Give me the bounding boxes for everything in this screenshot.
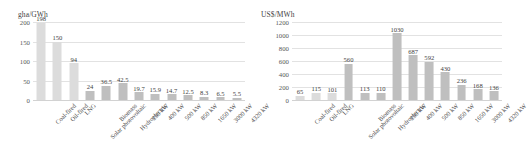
bar-value-label: 15.9	[150, 86, 162, 93]
bar-slot: 110	[373, 22, 389, 100]
bar-value-label: 198	[36, 15, 46, 22]
bar-value-label: 1030	[390, 26, 403, 33]
bar-slot: 42.5	[115, 22, 131, 100]
bar-slot: 198	[33, 22, 49, 100]
y-axis-tick-label: 1000	[275, 32, 289, 39]
bar-slot: 236	[454, 22, 470, 100]
bar-value-label: 65	[297, 88, 304, 95]
bar-value-label: 14.7	[166, 87, 178, 94]
bar-slot: 115	[308, 22, 324, 100]
bar[interactable]	[102, 86, 111, 100]
bar[interactable]	[312, 93, 321, 100]
bar-value-label: 236	[457, 77, 467, 84]
bar[interactable]	[151, 94, 160, 100]
bar[interactable]	[489, 91, 498, 100]
bar[interactable]	[232, 98, 241, 100]
bar-value-label: 430	[440, 65, 450, 72]
bar[interactable]	[200, 97, 209, 100]
y-axis-tick-label: 400	[279, 71, 289, 78]
plot-area-left: 198150942436.542.519.715.914.712.58.36.5…	[33, 22, 245, 100]
chart-panel-left: gha/GWh 198150942436.542.519.715.914.712…	[0, 0, 256, 164]
bar-value-label: 36.5	[101, 78, 113, 85]
bar[interactable]	[118, 83, 127, 100]
bar-value-label: 113	[360, 85, 370, 92]
bar-slot: 592	[421, 22, 437, 100]
y-axis-tick-label: 150	[20, 38, 30, 45]
bar-slot: 560	[340, 22, 356, 100]
bar-value-label: 24	[87, 83, 94, 90]
bar-value-label: 592	[424, 54, 434, 61]
x-axis-tick-label: 250 kW	[150, 102, 169, 121]
bar-slot: 168	[470, 22, 486, 100]
bar-slot: 14.7	[163, 22, 179, 100]
bar[interactable]	[473, 89, 482, 100]
plot-area-right: 651151015601131101030687592430236168136	[292, 22, 502, 100]
bar-value-label: 12.5	[182, 88, 194, 95]
bar[interactable]	[167, 94, 176, 100]
bar-value-label: 110	[376, 85, 386, 92]
y-axis-tick-label: 200	[20, 19, 30, 26]
x-axis-tick-label: 400 kW	[424, 102, 443, 121]
bar-slot: 19.7	[131, 22, 147, 100]
bar-value-label: 168	[473, 82, 483, 89]
bar-slot: 687	[405, 22, 421, 100]
bar-slot: 5.5	[229, 22, 245, 100]
bar-value-label: 8.3	[200, 89, 208, 96]
y-axis-tick-label: 0	[286, 97, 289, 104]
bar-value-label: 5.5	[233, 90, 241, 97]
bar[interactable]	[37, 23, 46, 100]
bar[interactable]	[425, 62, 434, 100]
bar-slot: 101	[324, 22, 340, 100]
bar[interactable]	[376, 93, 385, 100]
x-axis-tick-label: 500 kW	[440, 102, 459, 121]
bar-slot: 1030	[389, 22, 405, 100]
bar[interactable]	[393, 33, 402, 100]
bar-slot: 24	[82, 22, 98, 100]
bar[interactable]	[216, 97, 225, 100]
bar[interactable]	[409, 55, 418, 100]
bar[interactable]	[69, 63, 78, 100]
bar[interactable]	[344, 64, 353, 100]
y-axis-ticks-right: 020040060080010001200	[256, 22, 289, 100]
bar-value-label: 42.5	[117, 76, 129, 83]
bar-value-label: 101	[327, 86, 337, 93]
y-axis-tick-label: 800	[279, 45, 289, 52]
y-axis-tick-label: 1200	[275, 19, 289, 26]
bar-slot: 6.5	[212, 22, 228, 100]
bar[interactable]	[86, 91, 95, 100]
bar-value-label: 136	[489, 84, 499, 91]
chart-panel-right: US$/MWh 65115101560113110103068759243023…	[256, 0, 512, 164]
bar-slot: 94	[66, 22, 82, 100]
x-axis-tick-label: 400 kW	[166, 102, 185, 121]
bar-value-label: 150	[52, 34, 62, 41]
gridline	[292, 100, 502, 101]
y-axis-tick-label: 200	[279, 84, 289, 91]
y-axis-tick-label: 100	[20, 58, 30, 65]
bar-slot: 12.5	[180, 22, 196, 100]
bar[interactable]	[328, 93, 337, 100]
bar[interactable]	[135, 92, 144, 100]
y-axis-tick-label: 50	[23, 77, 30, 84]
y-axis-tick-label: 600	[279, 58, 289, 65]
bar[interactable]	[360, 93, 369, 100]
y-axis-ticks-left: 050100150200	[0, 22, 30, 100]
bar[interactable]	[53, 42, 62, 101]
bar-slot: 136	[486, 22, 502, 100]
bar-slot: 65	[292, 22, 308, 100]
bar[interactable]	[296, 96, 305, 100]
bar-slot: 113	[357, 22, 373, 100]
x-axis-tick-label: 500 kW	[182, 102, 201, 121]
bar-series-left: 198150942436.542.519.715.914.712.58.36.5…	[33, 22, 245, 100]
bar-slot: 8.3	[196, 22, 212, 100]
bar-value-label: 560	[344, 56, 354, 63]
bar-slot: 430	[437, 22, 453, 100]
bar[interactable]	[457, 85, 466, 100]
bar[interactable]	[183, 95, 192, 100]
bar-value-label: 115	[311, 85, 321, 92]
bar-slot: 150	[49, 22, 65, 100]
bar-value-label: 94	[70, 56, 77, 63]
bar-value-label: 19.7	[133, 85, 145, 92]
bar[interactable]	[441, 72, 450, 100]
bar-series-right: 651151015601131101030687592430236168136	[292, 22, 502, 100]
